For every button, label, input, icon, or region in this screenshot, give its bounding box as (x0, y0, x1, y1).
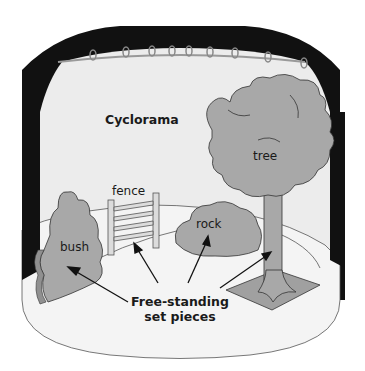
rock-label: rock (196, 218, 222, 230)
caption-line-2: set pieces (130, 311, 230, 324)
bush-label: bush (60, 241, 89, 253)
fence-label: fence (112, 185, 145, 197)
cyclorama-label: Cyclorama (105, 114, 179, 127)
tree-label: tree (253, 150, 277, 162)
caption-line-1: Free-standing (130, 296, 230, 309)
